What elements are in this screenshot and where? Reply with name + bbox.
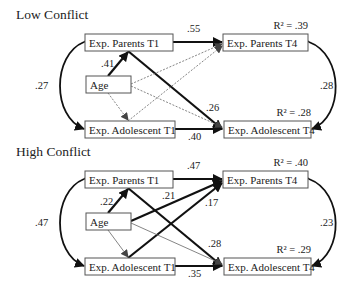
- panel-title: High Conflict: [16, 144, 91, 159]
- r-squared-parents-t4: R² = .39: [274, 20, 308, 31]
- panel-title: Low Conflict: [16, 7, 89, 22]
- r-squared-adolescent-t4: R² = .29: [277, 244, 311, 255]
- correlation-t1-curve: [60, 179, 84, 266]
- correlation-t1-label: .27: [35, 80, 48, 91]
- r-squared-adolescent-t4: R² = .28: [277, 107, 311, 118]
- node-label-parents-t1: Exp. Parents T1: [89, 37, 159, 49]
- path-coefficient: .26: [206, 102, 219, 113]
- path-coefficient: .35: [188, 268, 201, 279]
- path-coefficient: .40: [188, 131, 201, 142]
- node-label-age: Age: [90, 79, 108, 91]
- node-label-parents-t4: Exp. Parents T4: [227, 37, 298, 49]
- correlation-t4-label: .23: [320, 217, 333, 228]
- node-label-adolescent-t1: Exp. Adolescent T1: [89, 261, 176, 273]
- node-label-adolescent-t4: Exp. Adolescent T4: [228, 124, 315, 136]
- node-label-adolescent-t1: Exp. Adolescent T1: [89, 124, 176, 136]
- node-label-parents-t4: Exp. Parents T4: [227, 174, 298, 186]
- path-coefficient: .17: [205, 197, 218, 208]
- path-coefficient: .55: [187, 23, 200, 34]
- path-parents-t1-to-adolescent-t4: [128, 51, 222, 129]
- path-coefficient: .41: [101, 58, 114, 69]
- path-coefficient: .21: [162, 190, 175, 201]
- path-diagram: Low Conflict.55.26.40.41.27.28Exp. Paren…: [0, 0, 351, 290]
- path-coefficient: .28: [208, 238, 221, 249]
- path-coefficient: .47: [187, 160, 200, 171]
- node-label-age: Age: [90, 216, 108, 228]
- correlation-t1-curve: [60, 42, 84, 129]
- r-squared-parents-t4: R² = .40: [274, 157, 308, 168]
- path-coefficient: .22: [100, 196, 113, 207]
- path-age-to-adolescent-t1: [108, 93, 128, 120]
- node-label-adolescent-t4: Exp. Adolescent T4: [228, 261, 315, 273]
- correlation-t4-label: .28: [320, 80, 333, 91]
- path-age-to-adolescent-t1: [108, 230, 128, 257]
- node-label-parents-t1: Exp. Parents T1: [89, 174, 159, 186]
- correlation-t1-label: .47: [35, 217, 48, 228]
